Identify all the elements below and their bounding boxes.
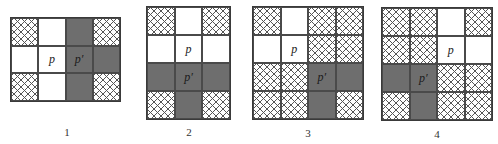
cell-r2-c2	[202, 63, 230, 91]
cell-r1-c2: p	[437, 36, 465, 64]
label-p: p	[49, 52, 55, 67]
cell-r0-c3	[336, 7, 364, 35]
label-p-prime: p′	[419, 71, 428, 86]
cell-r1-c1	[410, 36, 438, 64]
cell-r0-c2	[66, 18, 93, 46]
cell-r1-c0	[382, 36, 410, 64]
cell-r0-c0	[147, 7, 175, 35]
cell-r3-c1	[175, 91, 203, 119]
cell-r0-c0	[11, 18, 38, 46]
cell-r3-c1	[281, 91, 309, 119]
cell-r1-c1: p	[38, 46, 65, 74]
label-p-prime: p′	[184, 70, 193, 85]
cell-r2-c1: p′	[410, 64, 438, 92]
grid-1: pp′	[10, 17, 121, 102]
label-p-prime: p′	[317, 70, 326, 85]
cell-r2-c0	[382, 64, 410, 92]
caption-4: 4	[427, 128, 447, 140]
cell-r0-c0	[253, 7, 281, 35]
cell-r2-c2	[437, 64, 465, 92]
cell-r0-c1	[410, 8, 438, 36]
label-p: p	[448, 43, 454, 58]
cell-r0-c1	[281, 7, 309, 35]
cell-r0-c3	[465, 8, 493, 36]
cell-r2-c0	[147, 63, 175, 91]
cell-r2-c2	[66, 73, 93, 101]
cell-r0-c1	[175, 7, 203, 35]
cell-r0-c2	[308, 7, 336, 35]
cell-r3-c0	[147, 91, 175, 119]
cell-r2-c0	[253, 63, 281, 91]
grid-4: pp′	[381, 7, 493, 121]
cell-r1-c0	[11, 46, 38, 74]
cell-r1-c0	[253, 35, 281, 63]
caption-3: 3	[298, 127, 318, 139]
cell-r3-c1	[410, 92, 438, 120]
cell-r2-c0	[11, 73, 38, 101]
cell-r0-c2	[437, 8, 465, 36]
label-p-prime: p′	[75, 52, 84, 67]
cell-r3-c3	[465, 92, 493, 120]
cell-r0-c1	[38, 18, 65, 46]
cell-r1-c2: p′	[66, 46, 93, 74]
cell-r1-c3	[93, 46, 120, 74]
caption-1: 1	[57, 126, 77, 138]
cell-r1-c3	[465, 36, 493, 64]
cell-r1-c2	[202, 35, 230, 63]
cell-r2-c3	[336, 63, 364, 91]
cell-r0-c0	[382, 8, 410, 36]
cell-r2-c2: p′	[308, 63, 336, 91]
label-p: p	[291, 42, 297, 57]
cell-r2-c1	[281, 63, 309, 91]
grid-3: pp′	[252, 6, 364, 120]
cell-r1-c2	[308, 35, 336, 63]
cell-r1-c3	[336, 35, 364, 63]
cell-r2-c3	[465, 64, 493, 92]
cell-r0-c3	[93, 18, 120, 46]
cell-r1-c0	[147, 35, 175, 63]
cell-r2-c1	[38, 73, 65, 101]
cell-r2-c3	[93, 73, 120, 101]
cell-r3-c3	[336, 91, 364, 119]
cell-r3-c2	[437, 92, 465, 120]
cell-r3-c0	[382, 92, 410, 120]
cell-r2-c1: p′	[175, 63, 203, 91]
caption-2: 2	[179, 126, 199, 138]
cell-r3-c0	[253, 91, 281, 119]
cell-r0-c2	[202, 7, 230, 35]
grid-2: pp′	[146, 6, 231, 120]
cell-r3-c2	[308, 91, 336, 119]
cell-r1-c1: p	[281, 35, 309, 63]
cell-r3-c2	[202, 91, 230, 119]
label-p: p	[185, 42, 191, 57]
cell-r1-c1: p	[175, 35, 203, 63]
